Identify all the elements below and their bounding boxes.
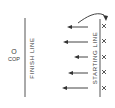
run-arrows xyxy=(62,25,88,90)
runner-markers xyxy=(102,24,106,90)
race-diagram: O COP FINISH LINE STARTING LINE xyxy=(0,0,115,108)
run-arrow-4 xyxy=(68,71,88,75)
runner-marker xyxy=(102,70,106,74)
arrowhead-left-icon xyxy=(62,86,67,90)
cop-label: COP xyxy=(8,56,20,62)
arrowhead-left-icon xyxy=(68,71,73,75)
arrowhead-left-icon xyxy=(74,55,79,59)
run-arrow-1 xyxy=(67,25,88,29)
finish-line-label: FINISH LINE xyxy=(29,37,35,78)
runner-marker xyxy=(102,86,106,90)
cop-symbol: O xyxy=(11,48,17,55)
starting-line-label: STARTING LINE xyxy=(92,32,98,85)
run-arrow-2 xyxy=(63,40,88,44)
arrowhead-left-icon xyxy=(67,25,72,29)
runner-marker xyxy=(102,24,106,28)
run-arrow-3 xyxy=(74,55,88,59)
runner-marker xyxy=(102,39,106,43)
runner-marker xyxy=(102,55,106,59)
run-arrow-5 xyxy=(62,86,88,90)
return-arrow xyxy=(78,14,108,23)
arrowhead-down-icon xyxy=(103,15,108,21)
arrowhead-left-icon xyxy=(63,40,68,44)
